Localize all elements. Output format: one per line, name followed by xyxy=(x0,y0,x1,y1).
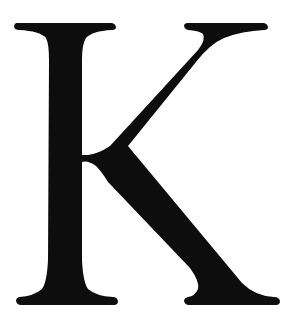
glyph-canvas: K xyxy=(0,0,293,325)
letter-k-glyph xyxy=(0,0,293,325)
stem-with-serifs xyxy=(14,23,280,305)
